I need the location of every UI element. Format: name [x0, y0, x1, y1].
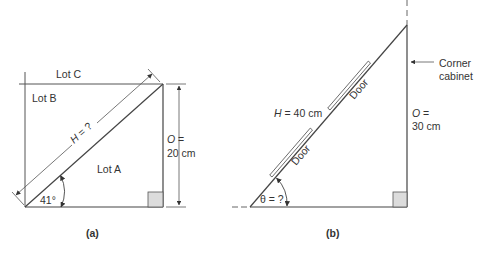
callout-line1: Corner: [439, 57, 472, 69]
lot-c-label: Lot C: [56, 68, 82, 80]
door-lower-label: Door: [288, 142, 312, 167]
hyp-dimension-line-lower: [16, 145, 72, 195]
hyp-extension-bottom: [12, 192, 24, 205]
diagram-b: Door Door H = 40 cm O = 30 cm Corner cab…: [232, 0, 473, 239]
lot-a-label: Lot A: [97, 163, 121, 175]
caption-a: (a): [86, 227, 99, 239]
figure-canvas: H = ? O = 20 cm 41° Lot C Lot B Lot A (a…: [0, 0, 490, 254]
opp-label-line2: 30 cm: [412, 120, 441, 132]
callout-line2: cabinet: [439, 70, 473, 82]
right-angle-marker: [393, 192, 407, 207]
angle-arc: [61, 176, 65, 208]
angle-label: 41°: [40, 194, 56, 206]
opp-label-line1: O =: [167, 133, 184, 145]
opp-label-line2: 20 cm: [167, 147, 196, 159]
caption-b: (b): [326, 227, 339, 239]
opp-label-line1: O =: [412, 107, 429, 119]
hyp-label: H = 40 cm: [274, 107, 322, 119]
hyp-dimension-line-upper: [97, 74, 152, 123]
diagram-a: H = ? O = 20 cm 41° Lot C Lot B Lot A (a…: [12, 68, 196, 239]
right-angle-marker: [148, 192, 163, 207]
angle-label: θ = ?: [260, 193, 284, 205]
door-upper-label: Door: [346, 76, 370, 101]
hyp-label: H = ?: [67, 120, 94, 146]
lot-b-label: Lot B: [32, 92, 57, 104]
